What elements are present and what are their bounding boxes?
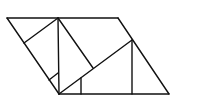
long-diagonal — [59, 40, 132, 94]
parallelogram-diagram — [0, 0, 206, 104]
right-slant — [118, 18, 169, 94]
inner-vertical-left — [58, 18, 59, 94]
left-slant — [7, 18, 59, 94]
perpendicular-to-left-slant — [24, 18, 58, 43]
inner-diagonal-down — [58, 18, 93, 68]
small-right-angle-mark — [49, 73, 58, 80]
